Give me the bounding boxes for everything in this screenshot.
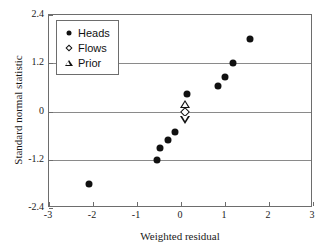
data-point-heads: [172, 129, 179, 136]
y-tick-mark: [49, 112, 53, 113]
x-tick-label: -2: [79, 209, 105, 220]
y-tick-label: -1.2: [18, 153, 44, 164]
legend-item-heads: Heads: [62, 25, 110, 40]
y-tick-mark: [49, 63, 53, 64]
x-tick-mark: [269, 202, 270, 206]
x-tick-label: 2: [255, 209, 281, 220]
y-tick-mark: [49, 160, 53, 161]
y-tick-mark: [49, 15, 53, 16]
data-point-heads: [229, 60, 236, 67]
data-point-prior: [180, 116, 190, 124]
y-tick-label: -2.4: [18, 201, 44, 212]
data-point-heads: [215, 83, 222, 90]
scatter-chart-figure: Standard normal statistic Weighted resid…: [0, 0, 329, 251]
data-point-prior: [180, 100, 190, 108]
x-tick-mark: [137, 202, 138, 206]
x-tick-label: -1: [123, 209, 149, 220]
data-point-heads: [247, 36, 254, 43]
open-triangle-icon: [62, 56, 75, 69]
x-tick-mark: [313, 202, 314, 206]
filled-circle-icon: [62, 26, 75, 39]
x-tick-mark: [49, 202, 50, 206]
x-tick-mark: [225, 202, 226, 206]
legend-item-prior: Prior: [62, 55, 110, 70]
data-point-heads: [86, 180, 93, 187]
legend-label-prior: Prior: [75, 57, 101, 69]
x-tick-mark: [93, 202, 94, 206]
legend-label-flows: Flows: [75, 42, 107, 54]
data-point-heads: [157, 144, 164, 151]
x-tick-label: 1: [211, 209, 237, 220]
data-point-heads: [153, 156, 160, 163]
y-tick-label: 0: [18, 105, 44, 116]
chart-legend: Heads Flows Prior: [56, 20, 119, 75]
data-point-heads: [183, 91, 190, 98]
legend-item-flows: Flows: [62, 40, 110, 55]
x-tick-label: 0: [167, 209, 193, 220]
open-diamond-icon: [62, 41, 75, 54]
y-tick-label: 2.4: [18, 8, 44, 19]
data-point-heads: [222, 73, 229, 80]
y-tick-label: 1.2: [18, 56, 44, 67]
x-axis-title: Weighted residual: [48, 230, 312, 242]
x-tick-mark: [181, 202, 182, 206]
legend-label-heads: Heads: [75, 27, 110, 39]
data-point-heads: [164, 136, 171, 143]
gridline-y: [49, 160, 311, 161]
x-tick-label: 3: [299, 209, 325, 220]
